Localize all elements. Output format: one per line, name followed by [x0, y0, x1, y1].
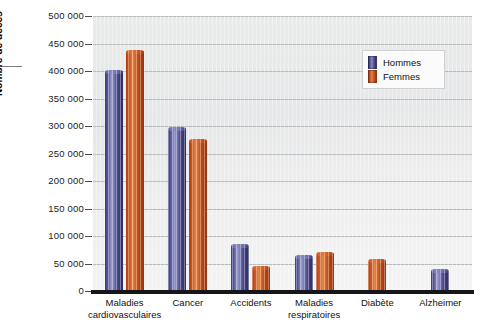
legend-label-hommes: Hommes [383, 58, 421, 68]
y-axis-tick [85, 99, 92, 100]
gridline [93, 99, 472, 100]
bar-femmes [189, 141, 207, 291]
bar-cap [126, 50, 144, 54]
y-axis-tick-label: 100 000 [48, 231, 84, 241]
gridline [93, 209, 472, 210]
y-axis-tick [85, 264, 92, 265]
y-axis-tick [85, 126, 92, 127]
bar-hommes [168, 129, 186, 291]
y-axis-tick-label: 450 000 [48, 39, 84, 49]
bar-cap [431, 269, 449, 273]
bar-hommes [295, 257, 313, 291]
gridline [93, 44, 472, 45]
chart-legend: Hommes Femmes [362, 50, 445, 89]
y-axis-tick-label: 0 [79, 286, 84, 296]
bar-cap [368, 259, 386, 263]
bar-cap [231, 244, 249, 248]
bar-hommes [231, 246, 249, 291]
bar-cap [168, 127, 186, 131]
legend-item-femmes: Femmes [368, 70, 439, 83]
bar-femmes [368, 261, 386, 291]
gridline [93, 126, 472, 127]
bar-cap [316, 252, 334, 256]
legend-swatch-icon-femmes [368, 70, 377, 83]
y-axis-tick [85, 236, 92, 237]
gridline [93, 16, 472, 17]
y-axis-tick-label: 400 000 [48, 66, 84, 76]
bar-femmes [316, 254, 334, 291]
gridline [93, 181, 472, 182]
legend-swatch-icon-hommes [368, 56, 377, 69]
legend-item-hommes: Hommes [368, 56, 439, 69]
bar-cap [189, 139, 207, 143]
bar-cap [295, 255, 313, 259]
y-axis-tick-label: 300 000 [48, 121, 84, 131]
x-axis-line [91, 290, 474, 294]
gridline [93, 154, 472, 155]
bar-femmes [252, 268, 270, 291]
legend-label-femmes: Femmes [383, 72, 420, 82]
bar-femmes [126, 52, 144, 291]
gridline [93, 264, 472, 265]
y-axis-tick-label: 200 000 [48, 176, 84, 186]
chart-figure: Nombre de décès 050 000100 000150 000200… [0, 0, 497, 335]
bar-hommes [431, 271, 449, 291]
y-axis-title: Nombre de décès [0, 0, 4, 96]
y-axis-tick [85, 209, 92, 210]
y-axis-tick-label: 500 000 [48, 11, 84, 21]
gridline [93, 236, 472, 237]
y-axis-tick [85, 71, 92, 72]
bar-cap [252, 266, 270, 270]
y-axis-tick-label: 150 000 [48, 204, 84, 214]
x-axis-category-label: Alzheimer [385, 297, 495, 309]
y-axis-tick-label: 350 000 [48, 94, 84, 104]
y-axis-tick [85, 44, 92, 45]
bar-cap [105, 70, 123, 74]
y-axis-tick [85, 154, 92, 155]
y-axis-tick [85, 181, 92, 182]
y-axis-tick-label: 50 000 [54, 259, 84, 269]
bar-hommes [105, 72, 123, 292]
y-axis-tick [85, 16, 92, 17]
y-axis-tick-label: 250 000 [48, 149, 84, 159]
